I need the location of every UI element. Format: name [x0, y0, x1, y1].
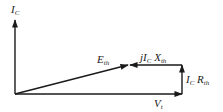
vt-label-sub: t: [161, 103, 163, 111]
icrth-label-sub2: th: [204, 79, 209, 87]
ic-axis-label: IC: [11, 4, 19, 17]
eth-label-sub: th: [104, 59, 109, 67]
icrth-label-mid: R: [194, 73, 203, 85]
ic-axis-label-sub: C: [15, 9, 20, 17]
phasor-vectors: [0, 0, 223, 112]
jicxth-label-mid: X: [151, 51, 160, 63]
vt-label-main: V: [154, 97, 161, 109]
jicxth-label: jIC Xth: [140, 52, 166, 65]
eth-vector: [15, 65, 128, 94]
jicxth-label-sub2: th: [161, 57, 166, 65]
vt-label: Vt: [154, 98, 163, 111]
phasor-diagram: IC Eth jIC Xth IC Rth Vt: [0, 0, 223, 112]
jicxth-label-prefix: jI: [140, 51, 147, 63]
icrth-label: IC Rth: [186, 74, 209, 87]
eth-label: Eth: [97, 54, 109, 67]
eth-label-main: E: [97, 53, 104, 65]
